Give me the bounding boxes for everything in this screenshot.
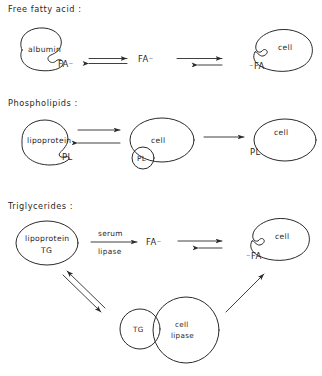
section-title-phospholipids: Phospholipids :: [8, 98, 78, 108]
free-fa-label: FA⁻: [138, 54, 154, 64]
cell-label-ffa: cell: [278, 43, 292, 52]
equilibrium-arrows-right: [177, 59, 222, 66]
pl-vesicle-label: PL: [137, 154, 146, 163]
right-cell-label-pl: cell: [274, 128, 288, 137]
albumin-bound-fa-label: FA⁻: [58, 59, 74, 69]
lipoprotein-blob-tg: [16, 221, 78, 265]
tg-droplet-label: TG: [132, 325, 144, 334]
section-title-triglycerides: Triglycerides :: [7, 201, 73, 211]
free-fa-label-tg: FA⁻: [146, 237, 162, 247]
section-title-free-fatty-acid: Free fatty acid :: [8, 4, 81, 14]
cell-lipase-line-1: cell: [175, 320, 189, 329]
section-free-fatty-acid: Free fatty acid : albumin FA⁻ FA⁻ cell ⁻…: [8, 4, 312, 71]
section-phospholipids: Phospholipids : lipoprotein PL cell PL c…: [8, 98, 316, 169]
right-cell-bound-pl-label: PL: [250, 147, 261, 157]
equilibrium-arrows-tg: [178, 241, 222, 248]
lipase-to-cell-arrow: [226, 274, 264, 312]
cell-bound-fa-label-tg: ⁻FA: [246, 251, 262, 261]
middle-cell-label-pl: cell: [151, 136, 165, 145]
serum-lipase-line-2: lipase: [98, 247, 122, 256]
lipoprotein-bound-pl-label: PL: [62, 152, 73, 162]
section-triglycerides: Triglycerides : lipoprotein TG serum lip…: [7, 201, 309, 363]
albumin-label: albumin: [28, 45, 61, 54]
lipoprotein-label-pl: lipoprotein: [27, 136, 72, 145]
phospholipid-exchange-arrows: [78, 130, 120, 143]
cell-label-tg: cell: [275, 232, 289, 241]
serum-lipase-line-1: serum: [98, 229, 123, 238]
serum-lipase-arrow: serum lipase: [91, 229, 137, 256]
lipoprotein-label-tg: lipoprotein: [25, 234, 70, 243]
cell-bound-fa-label: ⁻FA: [249, 61, 265, 71]
lipid-transport-diagram: Free fatty acid : albumin FA⁻ FA⁻ cell ⁻…: [0, 0, 322, 376]
equilibrium-arrows-left: [89, 59, 127, 64]
right-cell-pl: [254, 119, 316, 161]
cell-lipase-line-2: lipase: [171, 331, 194, 340]
tg-recycle-arrows: [63, 271, 105, 312]
cell-lipase-circle: [153, 297, 219, 363]
lipoprotein-cargo-tg-label: TG: [40, 246, 52, 255]
